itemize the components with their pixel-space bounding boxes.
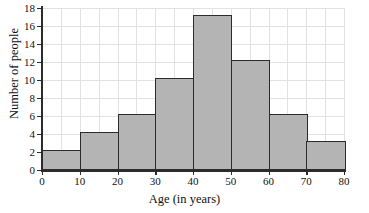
y-axis-line	[41, 6, 43, 172]
x-axis-tick-label: 70	[301, 176, 312, 187]
histogram-chart: 024681012141618 01020304050607080 Age (i…	[0, 0, 369, 213]
y-axis-tick	[37, 62, 41, 63]
histogram-bar	[269, 114, 308, 170]
plot-area	[42, 8, 344, 170]
histogram-bar	[231, 60, 270, 170]
x-axis-title: Age (in years)	[0, 192, 369, 207]
y-axis-tick-label: 12	[24, 57, 35, 68]
histogram-bar	[118, 114, 157, 170]
y-axis-tick	[37, 116, 41, 117]
y-axis-tick-label: 14	[24, 39, 35, 50]
y-axis-tick	[37, 80, 41, 81]
y-axis-tick-label: 18	[24, 3, 35, 14]
x-axis-tick-label: 0	[39, 176, 45, 187]
x-axis-tick-label: 20	[112, 176, 123, 187]
y-axis-tick	[37, 170, 41, 171]
y-axis-tick-label: 8	[30, 93, 36, 104]
y-axis-tick-label: 16	[24, 21, 35, 32]
x-axis-tick-label: 50	[225, 176, 236, 187]
x-axis-tick-label: 40	[188, 176, 199, 187]
histogram-bar	[155, 78, 194, 170]
histogram-bar	[306, 141, 345, 170]
y-axis-tick	[37, 98, 41, 99]
histogram-bar	[80, 132, 119, 170]
histogram-bar	[42, 150, 81, 170]
y-axis-tick-label: 10	[24, 75, 35, 86]
y-axis-tick	[37, 26, 41, 27]
y-axis-tick-label: 6	[30, 111, 36, 122]
y-axis-tick-label: 2	[30, 147, 36, 158]
y-axis-tick	[37, 152, 41, 153]
y-axis-tick-label: 4	[30, 129, 36, 140]
histogram-bar	[193, 15, 232, 170]
x-axis-tick-label: 30	[150, 176, 161, 187]
y-axis-title: Number of people	[7, 4, 22, 144]
x-axis-tick-label: 60	[263, 176, 274, 187]
y-axis-tick	[37, 134, 41, 135]
x-axis-tick-label: 10	[74, 176, 85, 187]
y-axis-tick-label: 0	[30, 165, 36, 176]
gridline-vertical	[61, 8, 62, 170]
y-axis-tick	[37, 8, 41, 9]
x-axis-tick-label: 80	[339, 176, 350, 187]
y-axis-tick	[37, 44, 41, 45]
